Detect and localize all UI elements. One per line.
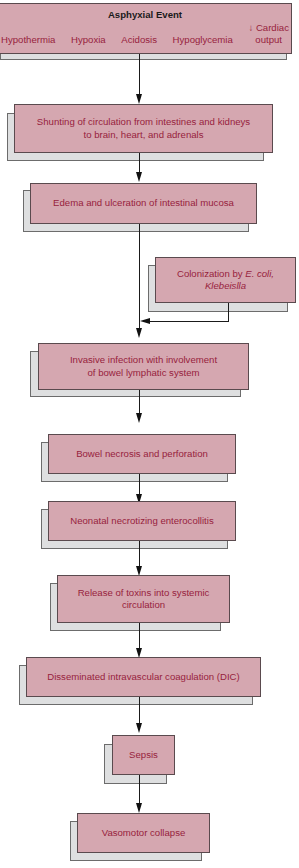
asphyxial-event-title: Asphyxial Event bbox=[108, 9, 182, 21]
edema-box: Edema and ulceration of intestinal mucos… bbox=[30, 183, 257, 224]
nec-label: Neonatal necrotizing enterocollitis bbox=[70, 515, 213, 528]
vasomotor-box: Vasomotor collapse bbox=[77, 813, 210, 853]
toxins-box: Release of toxins into systemic circulat… bbox=[57, 575, 230, 623]
connector-line bbox=[139, 54, 140, 96]
dic-label: Disseminated intravascular coagulation (… bbox=[47, 671, 240, 684]
arrow-down-icon bbox=[136, 723, 142, 733]
shunting-line2: to brain, heart, and adrenals bbox=[83, 129, 203, 142]
sepsis-box: Sepsis bbox=[112, 735, 175, 775]
flowchart: Asphyxial Event Hypothermia Hypoxia Acid… bbox=[0, 0, 299, 868]
factor-hypothermia: Hypothermia bbox=[1, 34, 55, 46]
connector-line bbox=[139, 623, 140, 651]
asphyxial-event-box: Asphyxial Event Hypothermia Hypoxia Acid… bbox=[0, 3, 292, 54]
invasive-line2: of bowel lymphatic system bbox=[88, 367, 200, 380]
factor-acidosis: Acidosis bbox=[121, 34, 157, 46]
arrow-left-icon bbox=[140, 318, 150, 324]
colonization-organism-ecoli: E. coli, bbox=[245, 268, 274, 279]
nec-box: Neonatal necrotizing enterocollitis bbox=[48, 501, 236, 541]
arrow-down-icon bbox=[136, 413, 142, 423]
necrosis-box: Bowel necrosis and perforation bbox=[48, 434, 236, 474]
toxins-line1: Release of toxins into systemic bbox=[78, 587, 210, 600]
colonization-line1: Colonization by E. coli, bbox=[177, 268, 274, 281]
arrow-down-icon bbox=[136, 94, 142, 104]
connector-line bbox=[145, 321, 229, 322]
colonization-organism-klebsiella: Klebeislla bbox=[205, 280, 246, 293]
connector-line bbox=[139, 541, 140, 568]
connector-line bbox=[139, 697, 140, 726]
cardiac-line1: ↓ Cardiac bbox=[248, 22, 289, 34]
invasive-box: Invasive infection with involvement of b… bbox=[38, 343, 249, 390]
factor-decreased-cardiac-output: ↓ Cardiac output bbox=[248, 22, 289, 45]
arrow-down-icon bbox=[136, 328, 142, 338]
arrow-down-icon bbox=[136, 803, 142, 813]
shunting-line1: Shunting of circulation from intestines … bbox=[37, 116, 250, 129]
sepsis-label: Sepsis bbox=[129, 749, 158, 762]
colonization-box: Colonization by E. coli, Klebeislla bbox=[155, 257, 296, 303]
vasomotor-label: Vasomotor collapse bbox=[102, 827, 186, 840]
factor-hypoxia: Hypoxia bbox=[71, 34, 106, 46]
asphyxial-factors-row: Hypothermia Hypoxia Acidosis Hypoglycemi… bbox=[1, 22, 289, 45]
factor-hypoglycemia: Hypoglycemia bbox=[173, 34, 233, 46]
toxins-line2: circulation bbox=[122, 599, 165, 612]
edema-label: Edema and ulceration of intestinal mucos… bbox=[53, 197, 234, 210]
dic-box: Disseminated intravascular coagulation (… bbox=[26, 657, 261, 697]
invasive-line1: Invasive infection with involvement bbox=[70, 354, 217, 367]
arrow-down-icon bbox=[136, 172, 142, 182]
connector-line bbox=[139, 224, 140, 330]
colonization-prefix: Colonization by bbox=[177, 268, 245, 279]
connector-line bbox=[228, 303, 229, 321]
connector-line bbox=[139, 775, 140, 805]
cardiac-line2: output bbox=[248, 34, 289, 46]
necrosis-label: Bowel necrosis and perforation bbox=[76, 448, 208, 461]
shunting-box: Shunting of circulation from intestines … bbox=[14, 104, 273, 153]
